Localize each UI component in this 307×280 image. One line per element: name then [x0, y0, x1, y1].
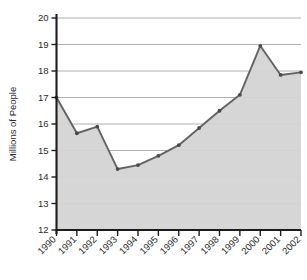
series-area-millions-of-people	[57, 46, 302, 230]
y-tick-label-13: 13	[38, 198, 49, 209]
y-axis-title-text: Millions of People	[7, 87, 18, 161]
data-point-1994	[136, 163, 140, 167]
y-tick-label-12: 12	[38, 224, 49, 235]
x-tick-label-1994: 1994	[117, 234, 140, 257]
y-tick-label-14: 14	[38, 171, 49, 182]
data-point-1999	[238, 93, 242, 97]
data-point-2000	[258, 44, 262, 48]
x-axis-ticks: 1990199119921993199419951996199719981999…	[35, 230, 302, 256]
data-point-1995	[156, 154, 160, 158]
y-axis-title: Millions of People	[7, 87, 18, 161]
data-point-1997	[197, 126, 201, 130]
data-point-1992	[95, 125, 99, 129]
area-fill	[57, 46, 302, 230]
data-point-1991	[75, 131, 79, 135]
y-axis-ticks: 121314151617181920	[38, 12, 57, 235]
x-tick-label-2001: 2001	[259, 234, 282, 257]
y-tick-label-19: 19	[38, 39, 49, 50]
y-tick-label-15: 15	[38, 145, 49, 156]
data-point-2002	[299, 70, 303, 74]
x-tick-label-1996: 1996	[157, 234, 180, 257]
x-tick-label-1999: 1999	[219, 234, 242, 257]
y-tick-label-20: 20	[38, 12, 49, 23]
x-tick-label-2000: 2000	[239, 234, 262, 257]
x-tick-label-2002: 2002	[280, 234, 303, 257]
y-tick-label-16: 16	[38, 118, 49, 129]
y-tick-label-17: 17	[38, 92, 49, 103]
x-tick-label-1991: 1991	[56, 234, 79, 257]
chart-container: 121314151617181920 199019911992199319941…	[0, 0, 307, 280]
x-tick-label-1995: 1995	[137, 234, 160, 257]
x-tick-label-1993: 1993	[96, 234, 119, 257]
data-point-1993	[116, 167, 120, 171]
area-chart: 121314151617181920 199019911992199319941…	[0, 0, 307, 280]
data-point-1996	[177, 143, 181, 147]
x-tick-label-1997: 1997	[178, 234, 201, 257]
x-tick-label-1992: 1992	[76, 234, 99, 257]
data-point-1998	[218, 109, 222, 113]
data-point-2001	[279, 73, 283, 77]
x-tick-label-1990: 1990	[35, 234, 58, 257]
x-tick-label-1998: 1998	[198, 234, 221, 257]
y-tick-label-18: 18	[38, 65, 49, 76]
